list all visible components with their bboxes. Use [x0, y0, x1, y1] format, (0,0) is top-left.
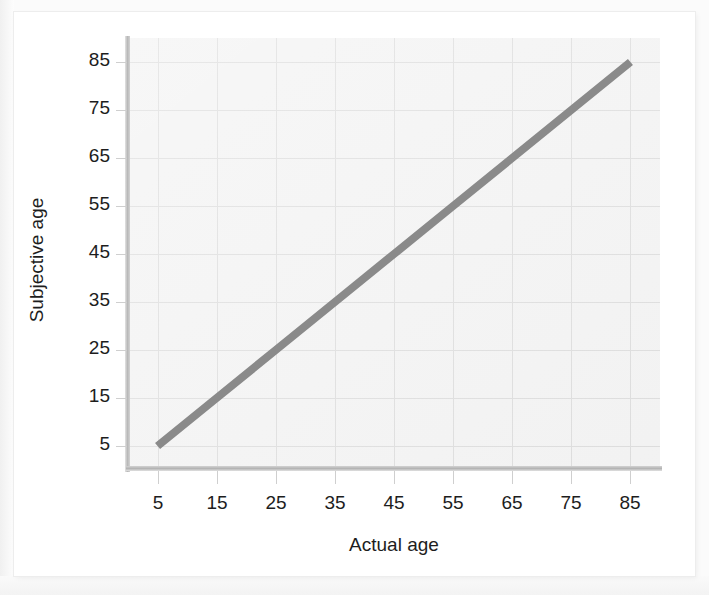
x-tick-mark: [394, 471, 395, 484]
x-tick-label: 35: [305, 492, 365, 514]
x-tick-label: 25: [246, 492, 306, 514]
x-tick-mark: [335, 471, 336, 484]
y-tick-label: 65: [54, 145, 110, 167]
x-tick-label: 15: [187, 492, 247, 514]
y-tick-mark: [116, 62, 127, 63]
x-tick-mark: [453, 471, 454, 484]
y-tick-mark: [116, 302, 127, 303]
x-tick-mark: [630, 471, 631, 484]
y-tick-label: 25: [54, 337, 110, 359]
y-axis-title: Subjective age: [26, 150, 48, 370]
x-tick-label: 45: [364, 492, 424, 514]
y-tick-label: 75: [54, 97, 110, 119]
y-tick-label: 15: [54, 385, 110, 407]
x-tick-label: 65: [482, 492, 542, 514]
x-tick-label: 85: [600, 492, 660, 514]
y-tick-mark: [116, 158, 127, 159]
y-tick-label: 5: [54, 433, 110, 455]
y-tick-mark: [116, 206, 127, 207]
series-polyline: [158, 62, 631, 446]
x-tick-mark: [217, 471, 218, 484]
y-tick-mark: [116, 446, 127, 447]
y-tick-label: 85: [54, 49, 110, 71]
y-tick-label: 45: [54, 241, 110, 263]
x-tick-mark: [571, 471, 572, 484]
x-tick-label: 5: [128, 492, 188, 514]
x-tick-mark: [158, 471, 159, 484]
y-tick-label: 55: [54, 193, 110, 215]
x-tick-label: 55: [423, 492, 483, 514]
x-tick-label: 75: [541, 492, 601, 514]
y-tick-label: 35: [54, 289, 110, 311]
x-tick-mark: [512, 471, 513, 484]
y-tick-mark: [116, 398, 127, 399]
x-tick-mark: [276, 471, 277, 484]
y-tick-mark: [116, 110, 127, 111]
line-chart: 51525354555657585 51525354555657585 Actu…: [0, 0, 709, 595]
y-tick-mark: [116, 254, 127, 255]
y-tick-mark: [116, 350, 127, 351]
x-axis-title: Actual age: [128, 534, 660, 556]
series-identity-line: [128, 38, 660, 470]
